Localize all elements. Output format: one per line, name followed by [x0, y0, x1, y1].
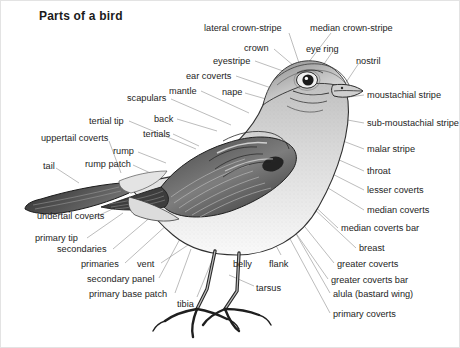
label-median-coverts: median coverts [367, 205, 429, 216]
label-rump-patch: rump patch [85, 159, 131, 170]
label-primary-tip: primary tip [35, 233, 78, 244]
label-tail: tail [43, 161, 55, 172]
leader-line-breast [297, 193, 356, 248]
label-throat: throat [367, 166, 391, 177]
label-nostril: nostril [356, 56, 381, 67]
label-tertials: tertials [143, 129, 170, 140]
leader-line-rump-patch [133, 165, 159, 177]
label-greater-coverts: greater coverts [337, 259, 398, 270]
leader-line-rump [138, 152, 166, 163]
label-tarsus: tarsus [256, 283, 281, 294]
leader-line-crown [274, 49, 294, 66]
leader-line-scapulars [171, 99, 231, 125]
label-vent: vent [137, 259, 154, 270]
label-tibia: tibia [177, 299, 194, 310]
label-median-coverts-bar: median coverts bar [341, 223, 419, 234]
label-crown: crown [244, 43, 269, 54]
leader-line-median-coverts [284, 161, 364, 210]
label-primary-coverts: primary coverts [333, 309, 396, 320]
label-uppertail-coverts: uppertail coverts [41, 133, 108, 144]
label-eye-ring: eye ring [306, 44, 339, 55]
label-ear-coverts: ear coverts [186, 71, 231, 82]
leader-line-ear-coverts [236, 76, 286, 93]
diagram-title: Parts of a bird [39, 9, 123, 23]
label-lesser-coverts: lesser coverts [367, 185, 424, 196]
label-mantle: mantle [169, 86, 197, 97]
label-rump: rump [113, 146, 134, 157]
label-scapulars: scapulars [127, 93, 166, 104]
leader-line-greater-coverts-bar [286, 219, 328, 279]
leader-line-belly [239, 227, 247, 255]
leader-line-primary-base-patch [175, 249, 191, 293]
label-breast: breast [359, 243, 385, 254]
label-malar-stripe: malar stripe [367, 144, 415, 155]
leader-line-eyestripe [255, 61, 297, 76]
label-median-crown-stripe: median crown-stripe [310, 23, 393, 34]
label-nape: nape [222, 87, 242, 98]
label-secondaries: secondaries [57, 244, 107, 255]
leader-line-lesser-coverts [287, 151, 364, 190]
leader-line-tarsus [229, 275, 254, 286]
leader-line-sub-moustachial-stripe [309, 113, 364, 123]
leader-line-nape [245, 93, 273, 101]
label-moustachial-stripe: moustachial stripe [367, 90, 441, 101]
leader-line-median-coverts-bar [279, 173, 338, 228]
bird-anatomy-diagram: Parts of a bird lateral crown-stripemedi… [0, 0, 460, 348]
leader-line-primary-coverts [289, 237, 330, 313]
leader-line-primaries [125, 223, 169, 263]
label-belly: belly [233, 259, 252, 270]
leader-line-flank [264, 223, 281, 255]
label-sub-moustachial-stripe: sub-moustachial stripe [367, 118, 459, 129]
leader-line-alula-bastard-wing [291, 225, 330, 293]
label-undertail-coverts: undertail coverts [37, 211, 104, 222]
label-lateral-crown-stripe: lateral crown-stripe [204, 23, 282, 34]
label-back: back [154, 114, 173, 125]
leader-line-tibia [197, 263, 211, 297]
label-greater-coverts-bar: greater coverts bar [331, 275, 408, 286]
label-flank: flank [269, 259, 288, 270]
leader-line-secondary-panel [159, 237, 181, 278]
label-alula-bastard-wing: alula (bastard wing) [333, 289, 413, 300]
label-primary-base-patch: primary base patch [89, 289, 167, 300]
leader-line-malar-stripe [301, 125, 364, 149]
label-primaries: primaries [81, 259, 119, 270]
leader-line-throat [301, 143, 364, 171]
label-secondary-panel: secondary panel [87, 274, 154, 285]
label-tertial-tip: tertial tip [89, 116, 124, 127]
leader-line-greater-coverts [289, 207, 334, 263]
leader-line-back [177, 119, 217, 131]
leader-line-tertials [173, 134, 199, 146]
leader-line-vent [161, 239, 197, 263]
leader-line-tail [56, 168, 79, 183]
leader-line-lateral-crown-stripe [289, 33, 301, 69]
leader-line-secondaries [113, 215, 153, 249]
leader-line-moustachial-stripe [319, 95, 364, 101]
label-eyestripe: eyestripe [213, 56, 250, 67]
